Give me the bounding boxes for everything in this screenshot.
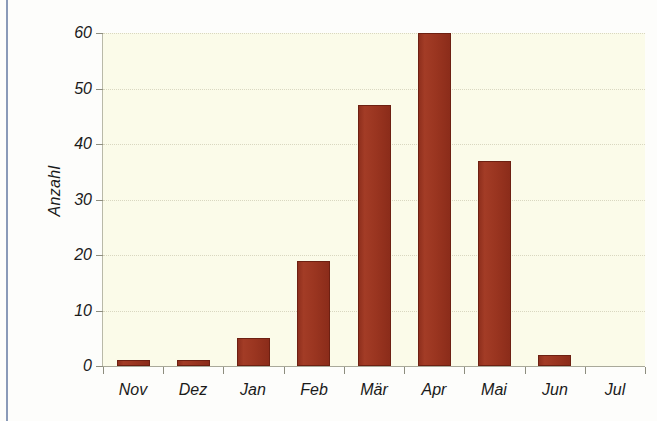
y-axis-tick-mark: [96, 89, 103, 90]
x-axis-spine: [102, 366, 645, 367]
x-axis-tick-mark: [525, 367, 526, 374]
x-axis-tick-label: Apr: [404, 381, 464, 399]
x-axis-tick-mark: [464, 367, 465, 374]
bar-jan: [237, 338, 270, 366]
x-axis-tick-mark: [585, 367, 586, 374]
gridline: [103, 33, 645, 35]
y-axis-tick-label: 60: [22, 24, 92, 42]
x-axis-tick-label: Jul: [585, 381, 645, 399]
bar-apr: [418, 33, 451, 366]
x-axis-tick-label: Mai: [464, 381, 524, 399]
x-axis-tick-label: Feb: [284, 381, 344, 399]
x-axis-tick-label: Nov: [103, 381, 163, 399]
x-axis-tick-mark: [404, 367, 405, 374]
x-axis-tick-label: Mär: [344, 381, 404, 399]
bar-nov: [117, 360, 150, 366]
y-axis-tick-label: 30: [22, 191, 92, 209]
y-axis-tick-label: 40: [22, 135, 92, 153]
y-axis-tick-mark: [96, 255, 103, 256]
bar-chart: Anzahl 0102030405060 NovDezJanFebMärAprM…: [0, 0, 657, 421]
y-axis-tick-mark: [96, 311, 103, 312]
y-axis-tick-mark: [96, 144, 103, 145]
bar-jun: [538, 355, 571, 366]
y-axis-tick-label: 10: [22, 302, 92, 320]
x-axis-tick-mark: [103, 367, 104, 374]
y-axis-tick-label: 50: [22, 80, 92, 98]
x-axis-tick-mark: [223, 367, 224, 374]
gridline: [103, 89, 645, 91]
x-axis-tick-mark: [284, 367, 285, 374]
y-axis-tick-mark: [96, 33, 103, 34]
x-axis-tick-label: Jun: [525, 381, 585, 399]
x-axis-tick-label: Dez: [163, 381, 223, 399]
x-axis-tick-mark: [645, 367, 646, 374]
y-axis-tick-label: 20: [22, 246, 92, 264]
y-axis-tick-label: 0: [22, 357, 92, 375]
x-axis-tick-mark: [163, 367, 164, 374]
bar-feb: [297, 261, 330, 366]
y-axis-tick-labels: 0102030405060: [18, 0, 92, 421]
bar-mai: [478, 161, 511, 366]
y-axis-tick-mark: [96, 200, 103, 201]
y-axis-tick-mark: [96, 366, 103, 367]
frame-left-rule: [6, 0, 8, 421]
x-axis-tick-label: Jan: [223, 381, 283, 399]
x-axis-tick-mark: [344, 367, 345, 374]
bar-mär: [358, 105, 391, 366]
bar-dez: [177, 360, 210, 366]
